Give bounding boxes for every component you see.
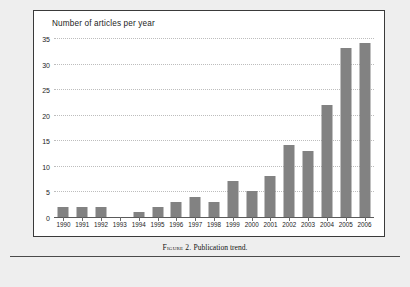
caption-text: Publication trend. xyxy=(193,243,247,252)
y-axis-tick-label: 30 xyxy=(42,61,50,68)
bar-group: 1999 xyxy=(223,38,242,217)
x-axis-tick-label: 2000 xyxy=(245,221,259,228)
x-axis-tick-label: 2002 xyxy=(282,221,296,228)
x-axis-tick-label: 1998 xyxy=(207,221,221,228)
x-axis-tick-label: 2001 xyxy=(263,221,277,228)
bar xyxy=(208,202,219,217)
bar-group: 1998 xyxy=(205,38,224,217)
y-axis-tick-label: 5 xyxy=(46,189,50,196)
bar xyxy=(227,181,238,217)
bar xyxy=(321,105,332,218)
bar-group: 1990 xyxy=(54,38,73,217)
y-axis-tick-label: 10 xyxy=(42,163,50,170)
bar-group: 1997 xyxy=(186,38,205,217)
x-axis-tick-label: 1991 xyxy=(75,221,89,228)
x-axis-tick-label: 2005 xyxy=(339,221,353,228)
x-axis-tick-label: 2004 xyxy=(320,221,334,228)
bar xyxy=(171,202,182,217)
bar-group: 1996 xyxy=(167,38,186,217)
bar-group: 1994 xyxy=(129,38,148,217)
bars-layer: 1990199119921993199419951996199719981999… xyxy=(54,38,374,217)
x-axis-tick-label: 1992 xyxy=(94,221,108,228)
bar-group: 2001 xyxy=(261,38,280,217)
bar-group: 1992 xyxy=(92,38,111,217)
figure-frame: Number of articles per year 051015202530… xyxy=(33,10,385,237)
y-axis-tick-label: 35 xyxy=(42,36,50,43)
bar xyxy=(359,43,370,217)
bar-group: 2002 xyxy=(280,38,299,217)
figure-caption: Figure 2.Publication trend. xyxy=(0,243,410,252)
bar xyxy=(303,151,314,217)
caption-divider xyxy=(10,256,400,257)
page-background: Number of articles per year 051015202530… xyxy=(0,0,410,287)
y-axis-tick-label: 25 xyxy=(42,87,50,94)
caption-prefix: Figure 2. xyxy=(163,243,192,252)
bar xyxy=(77,207,88,217)
x-axis-tick-label: 1997 xyxy=(188,221,202,228)
bar-group: 1991 xyxy=(73,38,92,217)
bar xyxy=(246,191,257,217)
x-axis-tick-label: 2006 xyxy=(358,221,372,228)
x-axis-tick-label: 1994 xyxy=(132,221,146,228)
y-axis-tick-label: 20 xyxy=(42,112,50,119)
bar-group: 2000 xyxy=(242,38,261,217)
bar-group: 2005 xyxy=(336,38,355,217)
bar-group: 2004 xyxy=(318,38,337,217)
bar xyxy=(284,145,295,217)
x-axis-tick-label: 1990 xyxy=(56,221,70,228)
x-axis-tick-label: 1999 xyxy=(226,221,240,228)
bar xyxy=(265,176,276,217)
bar xyxy=(58,207,69,217)
bar-group: 1995 xyxy=(148,38,167,217)
bar-group: 1993 xyxy=(110,38,129,217)
bar xyxy=(190,197,201,217)
x-axis-tick-label: 1996 xyxy=(169,221,183,228)
y-axis-tick-label: 0 xyxy=(46,215,50,222)
y-axis-tick-label: 15 xyxy=(42,138,50,145)
plot-area: 05101520253035 1990199119921993199419951… xyxy=(54,38,374,217)
bar-group: 2006 xyxy=(355,38,374,217)
bar xyxy=(96,207,107,217)
chart-title: Number of articles per year xyxy=(52,19,155,28)
x-axis-tick-label: 1995 xyxy=(151,221,165,228)
bar xyxy=(152,207,163,217)
bar xyxy=(340,48,351,217)
x-axis-tick-label: 1993 xyxy=(113,221,127,228)
x-axis-tick-label: 2003 xyxy=(301,221,315,228)
bar-group: 2003 xyxy=(299,38,318,217)
